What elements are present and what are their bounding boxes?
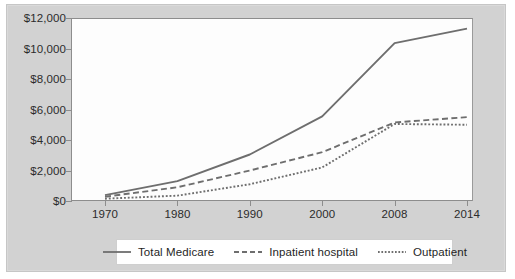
y-axis-tick-label: $8,000 [30, 73, 66, 85]
series-group [105, 29, 467, 199]
x-axis-tick-mark [177, 201, 178, 206]
chart-legend: Total Medicare Inpatient hospital Outpat… [116, 239, 453, 265]
x-axis-tick-mark [250, 201, 251, 206]
x-axis-tick-label: 2008 [382, 208, 408, 220]
y-axis-tick-label: $2,000 [30, 165, 66, 177]
dashed-line-icon [233, 247, 263, 257]
x-axis-tick-label: 2000 [309, 208, 335, 220]
plot-series-canvas [71, 18, 473, 201]
y-axis-tick-label: $12,000 [24, 12, 66, 24]
x-axis-tick-label: 1990 [237, 208, 263, 220]
x-axis-tick-mark [467, 201, 468, 206]
y-axis-tick-label: $6,000 [30, 104, 66, 116]
y-axis-tick-label: $10,000 [24, 43, 66, 55]
solid-line-icon [102, 247, 132, 257]
legend-item-inpatient-hospital: Inpatient hospital [233, 246, 358, 258]
x-axis-tick-label: 1980 [164, 208, 190, 220]
y-axis-tick-label: $0 [53, 195, 66, 207]
legend-label: Outpatient [413, 246, 467, 258]
legend-label: Inpatient hospital [269, 246, 358, 258]
legend-label: Total Medicare [138, 246, 214, 258]
y-axis-tick-label: $4,000 [30, 134, 66, 146]
x-axis: 197019801990200020082014 [71, 208, 473, 228]
y-axis-tick-mark [66, 201, 72, 202]
x-axis-tick-mark [322, 201, 323, 206]
y-axis-tick-mark [66, 171, 72, 172]
y-axis-tick-mark [66, 110, 72, 111]
x-axis-tick-mark [395, 201, 396, 206]
x-axis-tick-mark [105, 201, 106, 206]
series-line-total-medicare [105, 29, 467, 195]
x-axis-tick-label: 2014 [454, 208, 480, 220]
y-axis-tick-mark [66, 49, 72, 50]
y-axis-tick-mark [66, 79, 72, 80]
dotted-line-icon [377, 247, 407, 257]
medicare-spending-line-chart: $0$2,000$4,000$6,000$8,000$10,000$12,000… [0, 0, 515, 279]
legend-item-outpatient: Outpatient [377, 246, 467, 258]
y-axis-tick-mark [66, 140, 72, 141]
y-axis: $0$2,000$4,000$6,000$8,000$10,000$12,000 [0, 18, 66, 201]
y-axis-tick-mark [66, 18, 72, 19]
legend-item-total-medicare: Total Medicare [102, 246, 214, 258]
x-axis-tick-label: 1970 [92, 208, 118, 220]
